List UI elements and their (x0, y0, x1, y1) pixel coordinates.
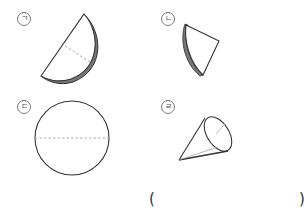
figure-canvas (0, 0, 307, 212)
cone-figure (179, 112, 237, 160)
fan-piece-figure (183, 24, 219, 76)
marker-giyeok: ㄱ (17, 12, 31, 26)
answer-blank[interactable] (160, 192, 295, 208)
marker-nieun: ㄴ (161, 12, 175, 26)
marker-digeut: ㄷ (17, 100, 31, 114)
half-disc-figure (41, 14, 98, 84)
marker-rieul: ㄹ (161, 100, 175, 114)
answer-open-paren: ( (149, 192, 155, 207)
circle-figure (35, 101, 109, 175)
answer-close-paren: ) (299, 192, 305, 207)
